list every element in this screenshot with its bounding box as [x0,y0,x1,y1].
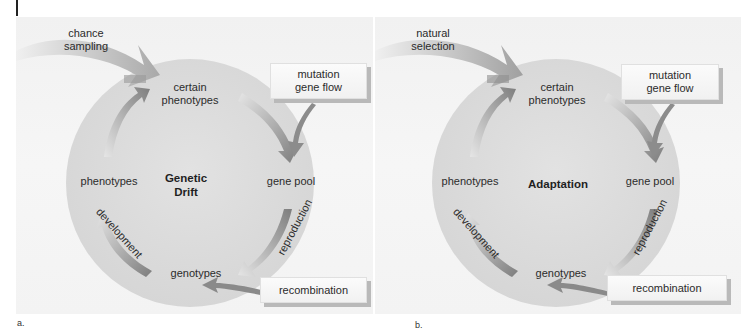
node-label-line2: phenotypes [150,94,230,107]
node-certain-phenotypes: certain phenotypes [517,81,597,107]
node-label-line1: certain [150,81,230,94]
box-mutation-gene-flow: mutation gene flow [621,64,719,100]
box-line1: mutation [649,69,691,82]
center-title: Adaptation [523,177,593,191]
node-phenotypes: phenotypes [435,175,505,188]
panel-genetic-drift: chance sampling certain phenotypes pheno… [16,17,373,314]
input-label-line1: natural [403,27,463,40]
box-line2: gene flow [295,81,342,94]
input-label-line2: selection [403,40,463,53]
input-label-line2: sampling [56,40,116,53]
node-label-line1: certain [517,81,597,94]
node-genotypes: genotypes [166,267,226,280]
box-line1: mutation [297,68,339,81]
center-title-line2: Drift [156,185,216,199]
box-recombination: recombination [260,277,367,303]
panel-adaptation: natural selection certain phenotypes phe… [375,17,741,314]
box-mutation-gene-flow: mutation gene flow [270,63,367,99]
center-title: Genetic Drift [156,171,216,199]
node-label-line2: phenotypes [517,94,597,107]
box-recombination: recombination [607,275,727,301]
center-title-line1: Adaptation [523,177,593,191]
panel-letter-a: a. [17,318,25,328]
node-certain-phenotypes: certain phenotypes [150,81,230,107]
node-gene-pool: gene pool [615,175,685,188]
input-arrow-label: natural selection [403,27,463,53]
input-label-line1: chance [56,27,116,40]
node-genotypes: genotypes [531,267,591,280]
node-phenotypes: phenotypes [74,175,144,188]
input-arrow-label: chance sampling [56,27,116,53]
margin-rule [16,0,18,16]
node-gene-pool: gene pool [256,175,326,188]
panel-letter-b: b. [415,320,423,330]
box-line2: gene flow [646,82,693,95]
center-title-line1: Genetic [156,171,216,185]
